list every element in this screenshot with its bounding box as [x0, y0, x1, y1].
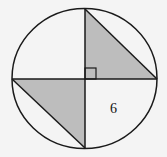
diagram-svg [0, 0, 167, 157]
label-six: 6 [110, 101, 117, 117]
circle-diagram: 6 [0, 0, 167, 157]
